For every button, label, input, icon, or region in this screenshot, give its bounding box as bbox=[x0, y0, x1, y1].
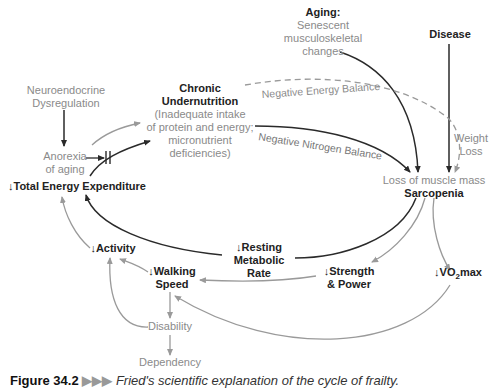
neuro-line-2: Dysregulation bbox=[18, 97, 114, 110]
resting-line-1: ↓Resting bbox=[224, 241, 294, 254]
anorexia-line-1: Anorexia bbox=[36, 150, 94, 163]
walking-line-2: Speed bbox=[144, 278, 200, 291]
aging-desc-1: Senescent bbox=[268, 19, 378, 32]
node-dependency: Dependency bbox=[136, 356, 204, 369]
chronic-line-3: (Inadequate intake bbox=[140, 108, 260, 121]
caption-text: Fried's scientific explanation of the cy… bbox=[116, 373, 399, 388]
node-sarcopenia: Loss of muscle mass Sarcopenia bbox=[376, 174, 492, 200]
caption-label: Figure 34.2 bbox=[10, 373, 79, 388]
edge-sarcopenia-to-strength bbox=[372, 198, 425, 262]
figure-caption: Figure 34.2 ▶▶▶ Fried's scientific expla… bbox=[10, 373, 399, 388]
node-disability: Disability bbox=[142, 320, 198, 333]
chronic-line-1: Chronic bbox=[140, 82, 260, 95]
resting-line-2: Metabolic bbox=[224, 254, 294, 267]
node-chronic-undernutrition: Chronic Undernutrition (Inadequate intak… bbox=[140, 82, 260, 160]
weight-loss-line-2: Loss bbox=[450, 145, 492, 158]
sarcopenia-text: Sarcopenia bbox=[376, 187, 492, 200]
aging-desc-2: musculoskeletal bbox=[268, 32, 378, 45]
caption-arrows-icon: ▶▶▶ bbox=[82, 373, 112, 388]
node-aging: Aging: Senescent musculoskeletal changes bbox=[268, 6, 378, 58]
resting-line-3: Rate bbox=[224, 267, 294, 280]
vo2-suffix: max bbox=[460, 266, 482, 278]
node-anorexia-of-aging: Anorexia of aging bbox=[36, 150, 94, 176]
node-neuroendocrine: Neuroendocrine Dysregulation bbox=[18, 84, 114, 110]
chronic-line-2: Undernutrition bbox=[140, 95, 260, 108]
aging-desc-3: changes bbox=[268, 45, 378, 58]
vo2-prefix: ↓VO bbox=[434, 266, 455, 278]
strength-line-2: & Power bbox=[318, 278, 380, 291]
muscle-loss-text: Loss of muscle mass bbox=[376, 174, 492, 187]
node-weight-loss: Weight Loss bbox=[450, 132, 492, 158]
walking-line-1: ↓Walking bbox=[144, 265, 200, 278]
node-vo2max: ↓VO2max bbox=[428, 266, 488, 283]
node-activity: ↓Activity bbox=[88, 242, 138, 255]
edge-sarcopenia-to-vo2 bbox=[433, 198, 450, 270]
weight-loss-line-1: Weight bbox=[450, 132, 492, 145]
edge-sarcopenia-to-resting bbox=[295, 198, 416, 258]
edge-anorexia-to-undernutrition bbox=[92, 123, 140, 145]
chronic-line-5: micronutrient bbox=[140, 134, 260, 147]
edge-activity-to-tee bbox=[62, 197, 90, 248]
anorexia-line-2: of aging bbox=[36, 163, 94, 176]
edge-vo2-to-walking bbox=[175, 285, 450, 339]
node-walking-speed: ↓Walking Speed bbox=[144, 265, 200, 291]
node-total-energy-expenditure: ↓Total Energy Expenditure bbox=[8, 180, 148, 193]
node-disease: Disease bbox=[418, 28, 482, 41]
neuro-line-1: Neuroendocrine bbox=[18, 84, 114, 97]
node-resting-metabolic-rate: ↓Resting Metabolic Rate bbox=[224, 241, 294, 280]
label-negative-nitrogen-balance: Negative Nitrogen Balance bbox=[258, 130, 383, 161]
label-negative-energy-balance: Negative Energy Balance bbox=[261, 80, 380, 100]
node-strength-power: ↓Strength & Power bbox=[318, 265, 380, 291]
strength-line-1: ↓Strength bbox=[318, 265, 380, 278]
chronic-line-4: of protein and energy; bbox=[140, 121, 260, 134]
aging-title: Aging: bbox=[268, 6, 378, 19]
chronic-line-6: deficiencies) bbox=[140, 147, 260, 160]
